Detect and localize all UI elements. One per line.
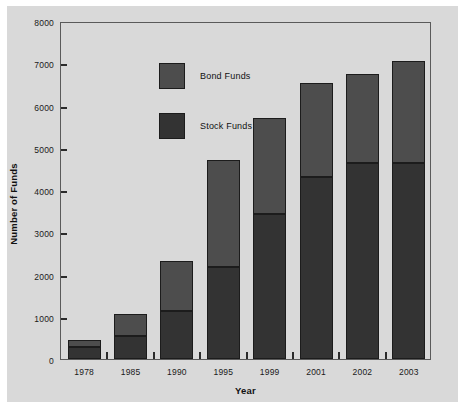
bar-stack-1999[interactable] <box>253 118 286 359</box>
x-tick-label: 1999 <box>260 367 280 377</box>
x-tick-mark <box>338 352 340 359</box>
legend-label: Stock Funds <box>200 121 252 131</box>
y-tick-mark <box>61 149 67 151</box>
legend-label: Bond Funds <box>200 71 251 81</box>
x-tick-label: 2001 <box>306 367 326 377</box>
bar-segment-stock-funds[interactable] <box>160 311 193 359</box>
bar-segment-stock-funds[interactable] <box>114 336 147 359</box>
bar-segment-bond-funds[interactable] <box>346 74 379 163</box>
bar-segment-stock-funds[interactable] <box>392 163 425 359</box>
x-tick-label: 2003 <box>399 367 419 377</box>
bar-segment-stock-funds[interactable] <box>346 163 379 359</box>
bar-stack-2002[interactable] <box>346 74 379 359</box>
legend-swatch-icon <box>159 113 185 139</box>
y-tick-label: 2000 <box>34 272 54 282</box>
y-axis-title: Number of Funds <box>8 163 19 245</box>
x-tick-mark <box>106 352 108 359</box>
y-tick-label: 1000 <box>34 314 54 324</box>
y-tick-label: 6000 <box>34 103 54 113</box>
legend-swatch-icon <box>159 63 185 89</box>
y-tick-mark <box>61 64 67 66</box>
x-tick-mark <box>292 352 294 359</box>
bar-segment-bond-funds[interactable] <box>392 61 425 163</box>
y-tick-label: 7000 <box>34 60 54 70</box>
x-tick-label: 1995 <box>213 367 233 377</box>
bar-segment-bond-funds[interactable] <box>207 160 240 267</box>
y-tick-label: 3000 <box>34 229 54 239</box>
y-tick-mark <box>61 191 67 193</box>
bar-stack-1985[interactable] <box>114 314 147 359</box>
bar-stack-1978[interactable] <box>68 340 101 359</box>
legend-item-bond-funds[interactable]: Bond Funds <box>159 63 251 89</box>
x-axis-title: Year <box>60 385 431 396</box>
legend-item-stock-funds[interactable]: Stock Funds <box>159 113 252 139</box>
y-tick-label: 4000 <box>34 187 54 197</box>
bar-segment-bond-funds[interactable] <box>253 118 286 214</box>
plot-area: 010002000300040005000600070008000 197819… <box>60 22 431 360</box>
y-tick-mark <box>61 107 67 109</box>
bar-segment-bond-funds[interactable] <box>160 261 193 311</box>
x-tick-mark <box>246 352 248 359</box>
figure-canvas: Number of Funds 010002000300040005000600… <box>7 6 458 402</box>
y-tick-label: 8000 <box>34 18 54 28</box>
bar-segment-bond-funds[interactable] <box>114 314 147 336</box>
bar-segment-stock-funds[interactable] <box>207 267 240 359</box>
x-tick-mark <box>385 352 387 359</box>
y-tick-label: 0 <box>49 356 54 366</box>
bar-segment-stock-funds[interactable] <box>253 214 286 359</box>
x-tick-label: 2002 <box>353 367 373 377</box>
bar-stack-1995[interactable] <box>207 160 240 359</box>
x-tick-label: 1990 <box>167 367 187 377</box>
bar-stack-2003[interactable] <box>392 61 425 359</box>
bar-segment-bond-funds[interactable] <box>68 340 101 347</box>
y-tick-mark <box>61 233 67 235</box>
bar-stack-1990[interactable] <box>160 261 193 359</box>
x-tick-mark <box>199 352 201 359</box>
bar-segment-stock-funds[interactable] <box>68 347 101 359</box>
x-tick-label: 1978 <box>74 367 94 377</box>
y-tick-mark <box>61 276 67 278</box>
y-tick-mark <box>61 318 67 320</box>
x-tick-mark <box>153 352 155 359</box>
y-tick-label: 5000 <box>34 145 54 155</box>
bar-stack-2001[interactable] <box>300 83 333 359</box>
bar-segment-stock-funds[interactable] <box>300 177 333 359</box>
bar-segment-bond-funds[interactable] <box>300 83 333 177</box>
x-tick-label: 1985 <box>121 367 141 377</box>
